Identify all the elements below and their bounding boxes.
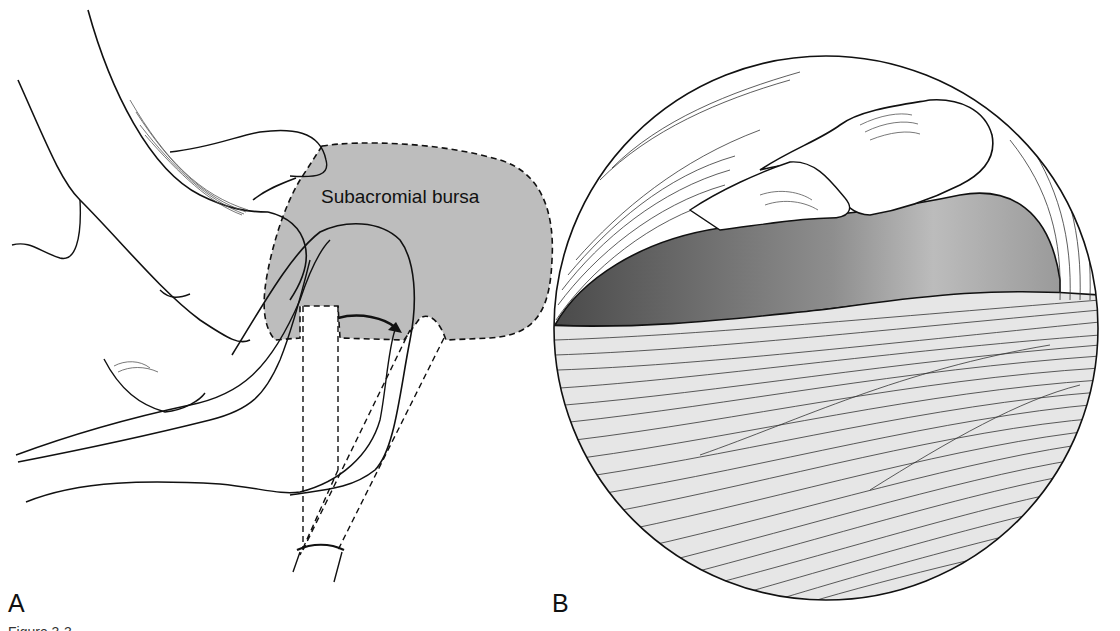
- figure-canvas: [0, 0, 1120, 631]
- panel-a-illustration: [12, 10, 552, 582]
- subacromial-bursa-region: [264, 143, 552, 340]
- figure-caption-fragment: Figure 3-3: [8, 624, 72, 631]
- humerus-outline: [18, 80, 250, 342]
- arthroscope-dashed-outline: [300, 306, 444, 555]
- panel-label-b: B: [552, 589, 569, 618]
- acromion-upper-outline: [88, 10, 268, 212]
- panel-label-a: A: [8, 589, 25, 618]
- subacromial-bursa-label: Subacromial bursa: [321, 186, 479, 208]
- panel-b-arthroscopic-view: [540, 56, 1100, 620]
